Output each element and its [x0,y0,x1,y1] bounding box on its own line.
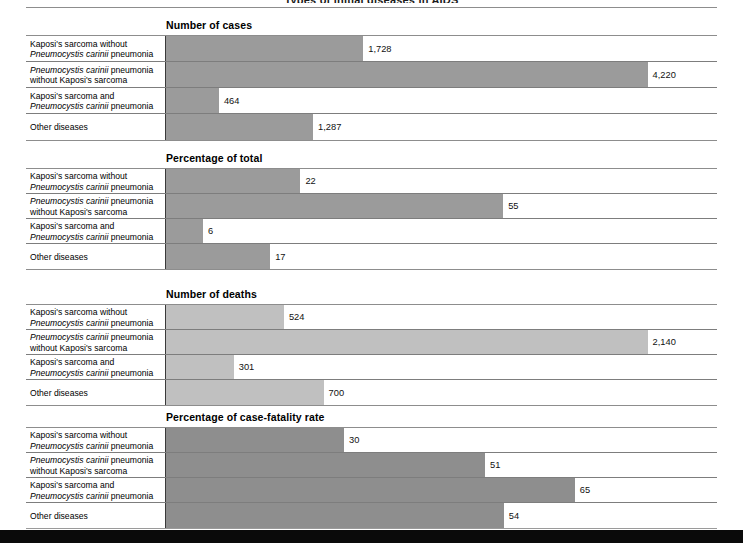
row-plot: 1,728 [166,36,717,61]
bar-value: 54 [504,511,519,521]
row-label-line1: Kaposi's sarcoma and [30,91,161,101]
row-label: Kaposi's sarcoma and Pneumocystis carini… [26,478,166,502]
bar-value: 22 [300,176,315,186]
bar [166,169,300,193]
row-label-line2: without Kaposi's sarcoma [30,466,161,476]
row-label: Pneumocystis carinii pneumonia without K… [26,330,166,354]
table-row: Other diseases 54 [26,503,717,528]
table-row: Kaposi's sarcoma and Pneumocystis carini… [26,478,717,503]
row-plot: 301 [166,355,717,379]
row-label: Kaposi's sarcoma without Pneumocystis ca… [26,169,166,193]
panel-chart: Kaposi's sarcoma without Pneumocystis ca… [26,168,717,270]
table-row: Kaposi's sarcoma and Pneumocystis carini… [26,219,717,244]
row-plot: 524 [166,305,717,329]
row-label: Kaposi's sarcoma without Pneumocystis ca… [26,305,166,329]
row-label-line2: Pneumocystis carinii pneumonia [30,232,161,242]
row-label: Kaposi's sarcoma and Pneumocystis carini… [26,88,166,113]
panel-chart: Kaposi's sarcoma without Pneumocystis ca… [26,427,717,529]
bar-value: 6 [203,226,213,236]
row-plot: 30 [166,428,717,452]
bottom-divider [26,528,717,529]
bar-value: 65 [575,485,590,495]
row-label-line2: Pneumocystis carinii pneumonia [30,491,161,501]
row-label-line1: Pneumocystis carinii pneumonia [30,65,161,75]
row-label-line1: Kaposi's sarcoma and [30,221,161,231]
table-row: Other diseases 1,287 [26,114,717,140]
row-plot: 22 [166,169,717,193]
panel-heading: Number of deaths [166,288,257,300]
table-row: Pneumocystis carinii pneumonia without K… [26,194,717,219]
bottom-black-band [0,530,743,543]
bar [166,453,485,477]
bar-value: 30 [344,435,359,445]
row-label-line2: Pneumocystis carinii pneumonia [30,101,161,111]
row-label: Other diseases [26,380,166,405]
table-row: Pneumocystis carinii pneumonia without K… [26,453,717,478]
panel-heading: Percentage of total [166,152,262,164]
row-label-line1: Kaposi's sarcoma and [30,357,161,367]
row-label-line1: Kaposi's sarcoma without [30,171,161,181]
bar-value: 17 [270,252,285,262]
bar [166,114,313,140]
row-label: Kaposi's sarcoma and Pneumocystis carini… [26,355,166,379]
bar-value: 4,220 [648,70,676,80]
row-plot: 17 [166,244,717,269]
row-label-line2: without Kaposi's sarcoma [30,75,161,85]
row-label: Other diseases [26,503,166,528]
bar-value: 55 [503,201,518,211]
row-label: Pneumocystis carinii pneumonia without K… [26,62,166,87]
row-label: Other diseases [26,244,166,269]
bar [166,244,270,269]
row-plot: 6 [166,219,717,243]
row-label-line1: Other diseases [30,252,161,262]
row-plot: 65 [166,478,717,502]
table-row: Pneumocystis carinii pneumonia without K… [26,62,717,88]
bar [166,478,575,502]
panel-chart: Kaposi's sarcoma without Pneumocystis ca… [26,35,717,141]
row-plot: 51 [166,453,717,477]
bar-value: 700 [324,388,345,398]
bar-value: 464 [219,96,240,106]
row-label-line1: Pneumocystis carinii pneumonia [30,455,161,465]
row-label-line2: Pneumocystis carinii pneumonia [30,182,161,192]
row-label: Other diseases [26,114,166,140]
table-row: Kaposi's sarcoma and Pneumocystis carini… [26,88,717,114]
row-label-line1: Kaposi's sarcoma without [30,307,161,317]
row-label-line2: Pneumocystis carinii pneumonia [30,49,161,59]
table-row: Kaposi's sarcoma without Pneumocystis ca… [26,169,717,194]
row-label: Kaposi's sarcoma without Pneumocystis ca… [26,36,166,61]
bar-value: 1,287 [313,122,341,132]
row-label: Pneumocystis carinii pneumonia without K… [26,194,166,218]
row-plot: 4,220 [166,62,717,87]
bar [166,503,504,528]
table-row: Pneumocystis carinii pneumonia without K… [26,330,717,355]
row-label-line1: Other diseases [30,511,161,521]
row-label: Pneumocystis carinii pneumonia without K… [26,453,166,477]
bar [166,428,344,452]
bar [166,88,219,113]
panel-chart: Kaposi's sarcoma without Pneumocystis ca… [26,304,717,406]
bar-value: 51 [485,460,500,470]
row-label-line1: Kaposi's sarcoma without [30,39,161,49]
row-plot: 2,140 [166,330,717,354]
bar [166,194,503,218]
table-row: Kaposi's sarcoma and Pneumocystis carini… [26,355,717,380]
row-plot: 54 [166,503,717,528]
row-label-line1: Other diseases [30,388,161,398]
bar [166,380,324,405]
table-row: Kaposi's sarcoma without Pneumocystis ca… [26,305,717,330]
bar [166,305,284,329]
row-label-line2: Pneumocystis carinii pneumonia [30,318,161,328]
row-label-line2: Pneumocystis carinii pneumonia [30,368,161,378]
bar [166,36,363,61]
panel-heading: Number of cases [166,19,252,31]
row-label-line1: Kaposi's sarcoma without [30,430,161,440]
row-label-line1: Pneumocystis carinii pneumonia [30,332,161,342]
bar [166,330,648,354]
table-row: Other diseases 700 [26,380,717,405]
row-plot: 700 [166,380,717,405]
table-row: Kaposi's sarcoma without Pneumocystis ca… [26,36,717,62]
bar [166,355,234,379]
row-plot: 464 [166,88,717,113]
row-label-line2: Pneumocystis carinii pneumonia [30,441,161,451]
